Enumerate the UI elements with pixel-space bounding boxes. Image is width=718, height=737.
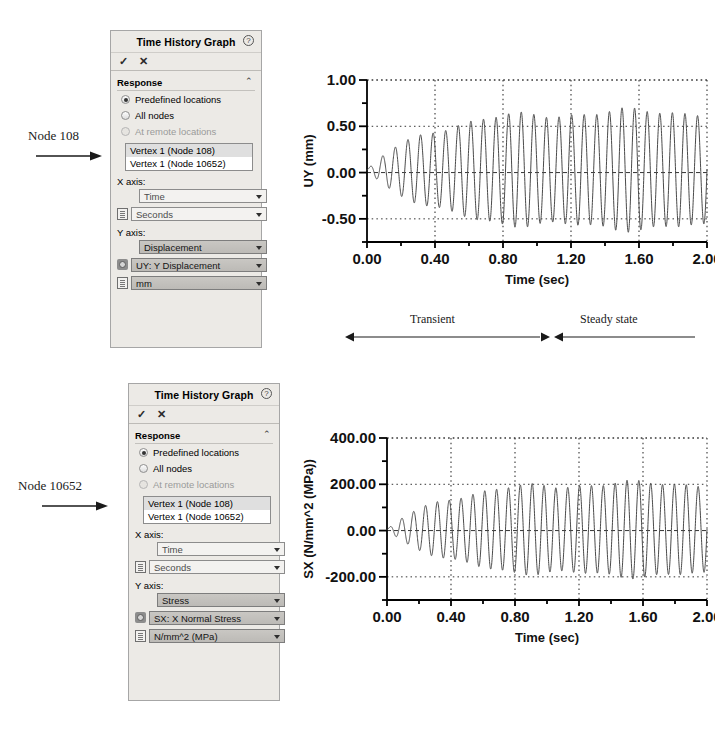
svg-text:2.00: 2.00 bbox=[692, 608, 715, 625]
chevron-down-icon[interactable] bbox=[274, 635, 280, 639]
x-unit-value: Seconds bbox=[136, 209, 173, 221]
x-quantity-row: Time bbox=[125, 189, 267, 204]
units-icon bbox=[135, 630, 146, 642]
locations-listbox[interactable]: Vertex 1 (Node 108) Vertex 1 (Node 10652… bbox=[125, 143, 253, 171]
x-quantity-select[interactable]: Time bbox=[139, 189, 267, 203]
radio-label: At remote locations bbox=[153, 478, 273, 491]
radio-at-remote-locations: At remote locations bbox=[135, 478, 273, 492]
y-axis-label: Y axis: bbox=[135, 580, 273, 591]
phase-label-steady: Steady state bbox=[580, 312, 638, 327]
radio-indicator bbox=[139, 448, 148, 457]
panel-titlebar: Time History Graph ? bbox=[129, 384, 279, 406]
svg-text:0.00: 0.00 bbox=[327, 164, 356, 181]
panel-title: Time History Graph bbox=[111, 36, 261, 48]
chevron-down-icon[interactable] bbox=[274, 599, 280, 603]
svg-text:-0.50: -0.50 bbox=[322, 210, 356, 227]
radio-label: Predefined locations bbox=[135, 93, 255, 106]
y-quantity-select[interactable]: Displacement bbox=[139, 240, 267, 254]
chevron-down-icon[interactable] bbox=[256, 195, 262, 199]
time-history-graph-panel-top[interactable]: Time History Graph ? ✓ ✕ Response ⌃ Pred… bbox=[110, 30, 262, 348]
help-icon[interactable]: ? bbox=[243, 35, 254, 46]
svg-text:Time (sec): Time (sec) bbox=[505, 272, 569, 287]
radio-indicator bbox=[121, 95, 130, 104]
chevron-up-icon[interactable]: ⌃ bbox=[245, 76, 253, 86]
y-quantity-value: Displacement bbox=[144, 242, 202, 254]
svg-text:400.00: 400.00 bbox=[330, 429, 376, 446]
svg-text:0.80: 0.80 bbox=[488, 250, 517, 267]
uy-time-history-chart: -0.500.000.501.000.000.400.801.201.602.0… bbox=[295, 62, 715, 312]
chevron-down-icon[interactable] bbox=[256, 246, 262, 250]
panel-titlebar: Time History Graph ? bbox=[111, 31, 261, 53]
panel-body: Response ⌃ Predefined locations All node… bbox=[129, 428, 279, 644]
y-quantity-select[interactable]: Stress bbox=[157, 593, 285, 607]
svg-text:-200.00: -200.00 bbox=[325, 568, 376, 585]
y-unit-row: mm bbox=[117, 276, 267, 291]
chevron-down-icon[interactable] bbox=[256, 282, 262, 286]
units-icon bbox=[117, 208, 128, 220]
section-title: Response bbox=[117, 77, 162, 88]
node-label-top: Node 108 bbox=[28, 128, 79, 144]
panel-body: Response ⌃ Predefined locations All node… bbox=[111, 75, 261, 291]
chevron-down-icon[interactable] bbox=[274, 566, 280, 570]
chevron-up-icon[interactable]: ⌃ bbox=[263, 429, 271, 439]
x-unit-select[interactable]: Seconds bbox=[131, 207, 267, 221]
radio-predefined-locations[interactable]: Predefined locations bbox=[117, 93, 255, 107]
y-unit-select[interactable]: mm bbox=[131, 276, 267, 290]
units-icon bbox=[135, 561, 146, 573]
svg-text:Time (sec): Time (sec) bbox=[515, 630, 579, 645]
locations-listbox[interactable]: Vertex 1 (Node 108) Vertex 1 (Node 10652… bbox=[143, 496, 271, 524]
node-arrow-bottom bbox=[42, 498, 108, 516]
y-axis-label: Y axis: bbox=[117, 227, 255, 238]
svg-text:200.00: 200.00 bbox=[330, 475, 376, 492]
radio-at-remote-locations: At remote locations bbox=[117, 125, 255, 139]
x-quantity-value: Time bbox=[162, 544, 183, 556]
chevron-down-icon[interactable] bbox=[256, 213, 262, 217]
response-section-header[interactable]: Response ⌃ bbox=[117, 75, 255, 91]
y-component-select[interactable]: UY: Y Displacement bbox=[131, 258, 267, 272]
confirm-checkmark-icon[interactable]: ✓ bbox=[119, 55, 128, 68]
radio-label: Predefined locations bbox=[153, 446, 273, 459]
sx-chart-canvas: -200.000.00200.00400.000.000.400.801.201… bbox=[295, 420, 715, 670]
help-icon[interactable]: ? bbox=[261, 388, 272, 399]
x-quantity-row: Time bbox=[143, 542, 285, 557]
x-quantity-value: Time bbox=[144, 191, 165, 203]
time-history-graph-panel-bottom[interactable]: Time History Graph ? ✓ ✕ Response ⌃ Pred… bbox=[128, 383, 280, 701]
y-unit-select[interactable]: N/mm^2 (MPa) bbox=[149, 629, 285, 643]
svg-text:1.20: 1.20 bbox=[556, 250, 585, 267]
cancel-x-icon[interactable]: ✕ bbox=[139, 55, 148, 68]
svg-text:0.50: 0.50 bbox=[327, 117, 356, 134]
radio-all-nodes[interactable]: All nodes bbox=[135, 462, 273, 476]
svg-text:2.00: 2.00 bbox=[692, 250, 715, 267]
phase-label-transient: Transient bbox=[410, 312, 455, 327]
chevron-down-icon[interactable] bbox=[274, 548, 280, 552]
y-component-value: SX: X Normal Stress bbox=[154, 613, 241, 625]
x-quantity-select[interactable]: Time bbox=[157, 542, 285, 556]
x-unit-select[interactable]: Seconds bbox=[149, 560, 285, 574]
radio-indicator bbox=[139, 480, 148, 489]
chevron-down-icon[interactable] bbox=[256, 264, 262, 268]
chevron-down-icon[interactable] bbox=[274, 617, 280, 621]
y-unit-value: N/mm^2 (MPa) bbox=[154, 631, 218, 643]
list-item[interactable]: Vertex 1 (Node 10652) bbox=[126, 157, 252, 170]
y-component-select[interactable]: SX: X Normal Stress bbox=[149, 611, 285, 625]
radio-predefined-locations[interactable]: Predefined locations bbox=[135, 446, 273, 460]
panel-action-bar: ✓ ✕ bbox=[129, 406, 279, 424]
list-item[interactable]: Vertex 1 (Node 108) bbox=[144, 497, 270, 510]
list-item[interactable]: Vertex 1 (Node 108) bbox=[126, 144, 252, 157]
svg-text:UY (mm): UY (mm) bbox=[301, 134, 316, 187]
y-quantity-value: Stress bbox=[162, 595, 189, 607]
section-title: Response bbox=[135, 430, 180, 441]
x-unit-row: Seconds bbox=[135, 560, 285, 575]
confirm-checkmark-icon[interactable]: ✓ bbox=[137, 408, 146, 421]
radio-all-nodes[interactable]: All nodes bbox=[117, 109, 255, 123]
list-item[interactable]: Vertex 1 (Node 10652) bbox=[144, 510, 270, 523]
x-axis-label: X axis: bbox=[117, 176, 255, 187]
svg-text:0.40: 0.40 bbox=[436, 608, 465, 625]
node-label-bottom: Node 10652 bbox=[18, 478, 82, 494]
uy-chart-canvas: -0.500.000.501.000.000.400.801.201.602.0… bbox=[295, 62, 715, 312]
response-section-header[interactable]: Response ⌃ bbox=[135, 428, 273, 444]
y-component-value: UY: Y Displacement bbox=[136, 260, 220, 272]
cancel-x-icon[interactable]: ✕ bbox=[157, 408, 166, 421]
radio-indicator bbox=[121, 127, 130, 136]
x-unit-value: Seconds bbox=[154, 562, 191, 574]
